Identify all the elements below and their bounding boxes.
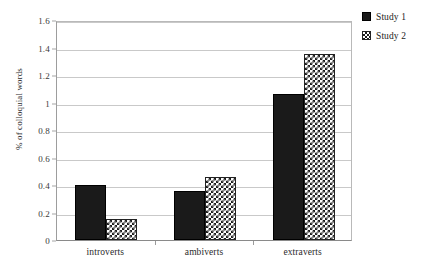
y-axis-tick-mark-1: [52, 213, 56, 214]
y-axis-tick-7: 1.4: [22, 44, 50, 54]
y-axis-tick-0: 0: [22, 236, 50, 246]
chart-legend: Study 1 Study 2: [362, 11, 428, 49]
x-axis-tick-mark-2: [253, 241, 254, 245]
y-axis-tick-8: 1.6: [22, 16, 50, 26]
y-axis-tick-mark-8: [52, 21, 56, 22]
y-axis-tick-mark-3: [52, 158, 56, 159]
y-axis-tick-mark-7: [52, 48, 56, 49]
x-axis-label-introverts: introverts: [87, 247, 124, 257]
bar-chart-figure: % of colloquial words 00.20.40.60.811.21…: [0, 0, 428, 274]
legend-swatch-study-1-icon: [362, 12, 371, 21]
legend-label-study-1: Study 1: [376, 12, 406, 22]
y-axis-tick-mark-5: [52, 103, 56, 104]
x-axis-tick-mark-1: [155, 241, 156, 245]
x-axis-label-ambiverts: ambiverts: [185, 247, 223, 257]
bar-extraverts-study-2: [304, 54, 335, 240]
legend-swatch-study-2-icon: [362, 31, 371, 40]
y-axis-tick-6: 1.2: [22, 71, 50, 81]
y-axis-tick-3: 0.6: [22, 154, 50, 164]
bar-group-ambiverts: [156, 22, 255, 240]
legend-label-study-2: Study 2: [376, 31, 406, 41]
y-axis-tick-mark-6: [52, 76, 56, 77]
y-axis-tick-1: 0.2: [22, 209, 50, 219]
legend-item-study-1: Study 1: [362, 11, 428, 22]
bar-ambiverts-study-2: [205, 177, 236, 240]
bar-introverts-study-1: [75, 185, 106, 240]
bar-extraverts-study-1: [273, 94, 304, 240]
bar-introverts-study-2: [106, 219, 137, 240]
x-axis-label-extraverts: extraverts: [283, 247, 321, 257]
y-axis-tick-mark-4: [52, 131, 56, 132]
bar-group-extraverts: [254, 22, 353, 240]
y-axis-tick-mark-2: [52, 186, 56, 187]
bar-series-container: [57, 22, 351, 240]
y-axis-tick-4: 0.8: [22, 126, 50, 136]
y-axis-tick-mark-0: [52, 241, 56, 242]
legend-item-study-2: Study 2: [362, 30, 428, 41]
plot-area: [56, 21, 352, 241]
bar-ambiverts-study-1: [174, 191, 205, 241]
y-axis-tick-5: 1: [22, 99, 50, 109]
bar-group-introverts: [57, 22, 156, 240]
y-axis-tick-labels: 00.20.40.60.811.21.41.6: [22, 0, 50, 274]
y-axis-tick-2: 0.4: [22, 181, 50, 191]
